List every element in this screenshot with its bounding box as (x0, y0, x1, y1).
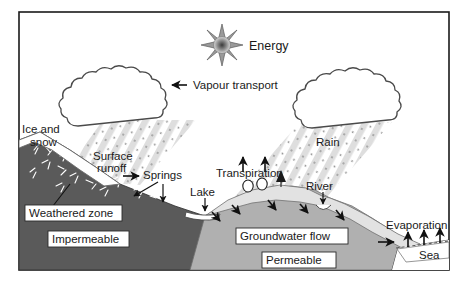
label-impermeable-box: Impermeable (48, 231, 129, 247)
label-weathered-zone-box: Weathered zone (25, 205, 122, 221)
label-groundwater-flow: Groundwater flow (240, 230, 331, 242)
label-energy: Energy (249, 39, 289, 53)
label-vapour-transport: Vapour transport (193, 79, 279, 91)
label-impermeable: Impermeable (52, 233, 119, 245)
label-transpiration: Transpiration (216, 167, 283, 179)
label-evaporation: Evaporation (386, 219, 447, 231)
hydrological-cycle-diagram: Energy Vapour transport Ice and snow Sur… (0, 0, 466, 291)
label-lake: Lake (190, 186, 215, 198)
tree-icon (243, 180, 253, 192)
label-river: River (306, 180, 333, 192)
label-permeable-box: Permeable (262, 252, 336, 268)
sun-burst-icon (201, 24, 243, 66)
label-ice-and-snow-line1: Ice and (22, 123, 60, 135)
label-sea: Sea (419, 249, 440, 261)
label-ice-and-snow-line2: snow (30, 136, 58, 148)
label-groundwater-flow-box: Groundwater flow (236, 228, 348, 244)
tree-icon (257, 178, 267, 190)
label-rain: Rain (316, 136, 340, 148)
label-surface-runoff-line1: Surface (93, 150, 133, 162)
label-weathered-zone: Weathered zone (29, 207, 113, 219)
label-surface-runoff-line2: runoff (97, 162, 127, 174)
label-springs: Springs (143, 169, 182, 181)
label-permeable: Permeable (266, 254, 322, 266)
